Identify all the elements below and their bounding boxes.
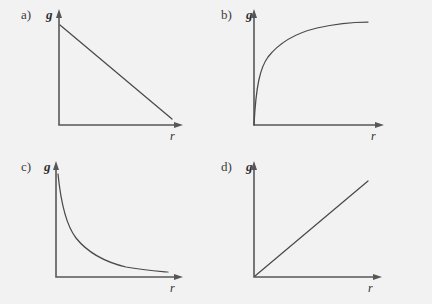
panel-b: b) g r (216, 0, 432, 152)
panel-a-axes (59, 18, 175, 125)
panel-c-curve (58, 174, 168, 272)
panel-d-letter: d) (221, 159, 232, 174)
panel-b-x-arrow-icon (375, 122, 384, 128)
panel-a-y-arrow-icon (56, 9, 62, 18)
panel-a-curve (60, 25, 172, 119)
panel-b-axes (254, 18, 376, 125)
figure-container: a) g r b) g r c) g r (0, 0, 432, 304)
panel-b-curve (254, 22, 368, 125)
panel-a-letter: a) (21, 7, 31, 22)
panel-c-letter: c) (21, 159, 31, 174)
panel-b-y-axis-label: g (245, 7, 253, 22)
panel-c-x-axis-label: r (170, 281, 175, 295)
panel-d-x-axis-label: r (368, 281, 373, 295)
panel-b-letter: b) (221, 7, 232, 22)
panel-c-y-axis-label: g (43, 159, 51, 174)
panel-a-y-axis-label: g (45, 7, 53, 22)
panel-a: a) g r (0, 0, 216, 152)
panel-d-x-arrow-icon (373, 274, 382, 280)
panel-c-y-arrow-icon (53, 161, 59, 170)
panel-c-axes (56, 170, 175, 277)
panel-a-x-arrow-icon (174, 122, 183, 128)
panel-d: d) g r (216, 152, 432, 304)
panel-b-x-axis-label: r (371, 129, 376, 143)
panel-a-x-axis-label: r (170, 129, 175, 143)
panel-d-y-axis-label: g (245, 159, 253, 174)
panel-c-x-arrow-icon (174, 274, 183, 280)
panel-d-curve (255, 181, 368, 276)
panel-c: c) g r (0, 152, 216, 304)
